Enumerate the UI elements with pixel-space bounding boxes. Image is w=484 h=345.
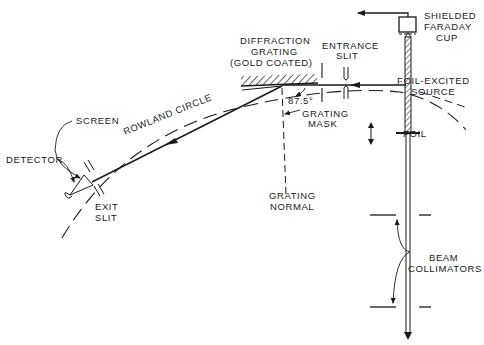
svg-text:(GOLD COATED): (GOLD COATED) — [230, 57, 313, 68]
svg-text:NORMAL: NORMAL — [270, 201, 314, 212]
entrance-slit — [344, 67, 348, 99]
label-diffraction-grating: DIFFRACTION GRATING (GOLD COATED) — [230, 35, 313, 68]
beam-collimators — [370, 215, 431, 307]
grating-normal-line — [282, 88, 286, 195]
svg-text:SLIT: SLIT — [336, 50, 358, 61]
label-grating-mask: GRATING MASK — [302, 108, 349, 129]
screen-leader — [55, 121, 80, 178]
svg-text:EXIT: EXIT — [95, 201, 119, 212]
label-faraday-cup: SHIELDED FARADAY CUP — [424, 10, 476, 43]
svg-text:CUP: CUP — [436, 32, 458, 43]
label-detector: DETECTOR — [6, 154, 63, 165]
spectrometer-diagram: SHIELDED FARADAY CUP DIFFRACTION GRATING… — [0, 0, 484, 345]
label-screen: SCREEN — [76, 115, 119, 126]
svg-text:GRATING: GRATING — [269, 190, 316, 201]
svg-text:FARADAY: FARADAY — [424, 21, 472, 32]
label-rowland-circle: ROWLAND CIRCLE — [122, 91, 214, 137]
svg-text:COLLIMATORS: COLLIMATORS — [408, 263, 482, 274]
svg-text:SOURCE: SOURCE — [411, 86, 455, 97]
label-angle: 87.5° — [288, 95, 313, 106]
svg-text:SHIELDED: SHIELDED — [424, 10, 476, 21]
label-grating-normal: GRATING NORMAL — [269, 190, 316, 212]
label-foil: FOIL — [403, 128, 427, 139]
label-beam-collimators: BEAM COLLIMATORS — [408, 252, 482, 274]
label-exit-slit: EXIT SLIT — [95, 201, 119, 223]
svg-text:SLIT: SLIT — [95, 212, 117, 223]
label-entrance-slit: ENTRANCE SLIT — [322, 40, 379, 61]
faraday-cup — [358, 13, 416, 34]
svg-text:GRATING: GRATING — [251, 46, 298, 57]
svg-text:MASK: MASK — [308, 118, 337, 129]
svg-text:BEAM: BEAM — [429, 252, 458, 263]
svg-text:DIFFRACTION: DIFFRACTION — [240, 35, 310, 46]
svg-text:FOIL-EXCITED: FOIL-EXCITED — [397, 75, 470, 86]
